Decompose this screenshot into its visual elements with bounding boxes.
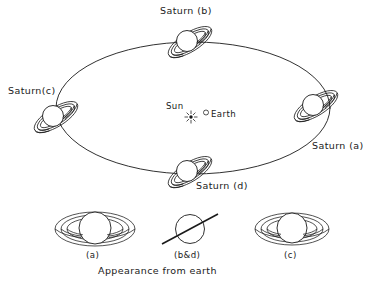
sun-label: Sun — [166, 102, 184, 111]
saturn-glyph-a — [290, 85, 342, 128]
saturn-label-d: Saturn (d) — [196, 181, 248, 191]
saturn-ring-tilt-diagram: Saturn (b) Saturn(c) Saturn (a) Saturn (… — [0, 0, 380, 285]
appearance-figure-bd — [162, 214, 218, 244]
earth-label: Earth — [211, 110, 236, 119]
saturn-label-c: Saturn(c) — [8, 86, 56, 96]
appearance-caption: Appearance from earth — [98, 266, 217, 276]
earth-circle-icon — [204, 110, 209, 115]
saturn-glyph-c — [30, 96, 82, 139]
orbit-path — [56, 42, 330, 174]
appearance-label-a: (a) — [86, 251, 99, 260]
sun-starburst-icon — [185, 111, 198, 124]
appearance-figure-a — [55, 212, 135, 246]
appearance-figure-c — [255, 213, 329, 245]
appearance-label-c: (c) — [284, 251, 297, 260]
saturn-label-a: Saturn (a) — [312, 141, 364, 151]
appearance-label-bd: (b&d) — [174, 251, 200, 260]
saturn-label-b: Saturn (b) — [160, 6, 212, 16]
